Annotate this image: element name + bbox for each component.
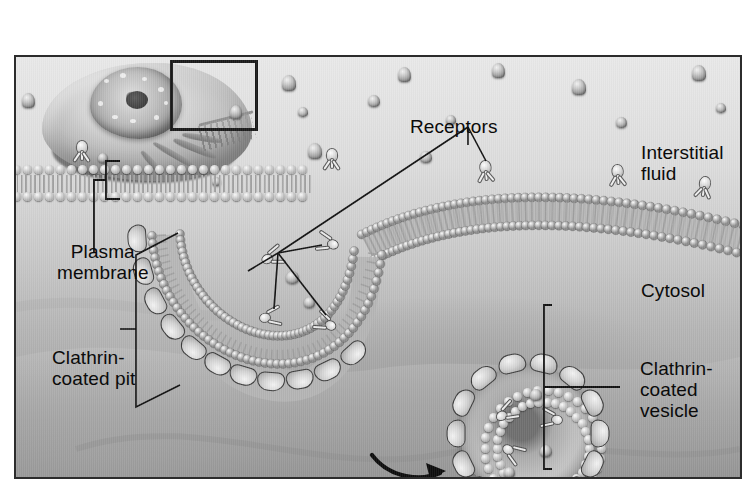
label-cytosol: Cytosol [641, 280, 705, 301]
figure-canvas: Receptors Interstitial fluid Cytosol Pla… [0, 0, 752, 492]
label-plasma-membrane: Plasma membrane [57, 241, 149, 283]
label-receptors: Receptors [410, 116, 498, 137]
label-interstitial-fluid: Interstitial fluid [641, 142, 724, 184]
label-clathrin-coated-pit: Clathrin- coated pit [52, 347, 135, 389]
label-clathrin-coated-vesicle: Clathrin- coated vesicle [640, 358, 713, 421]
